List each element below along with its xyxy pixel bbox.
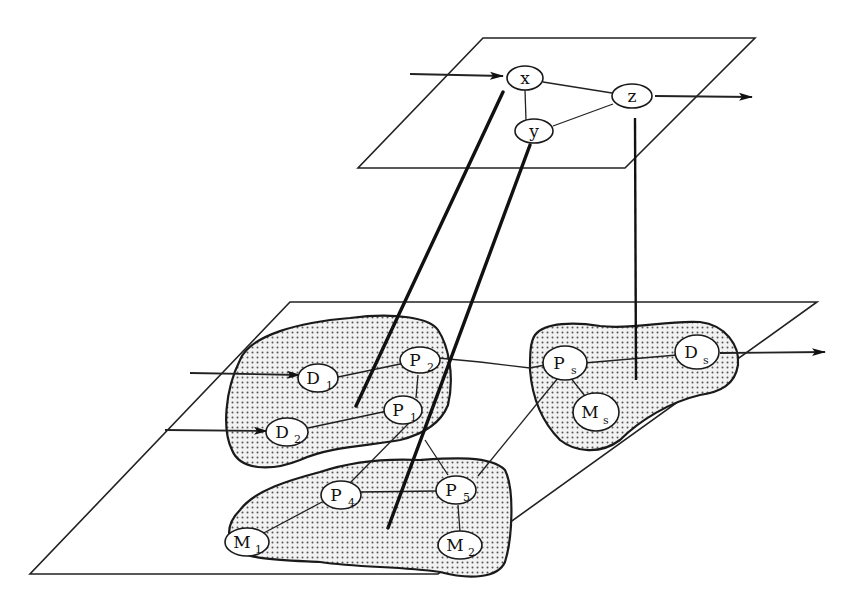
node-d2: D 2	[266, 418, 308, 446]
node-p1: P 1	[384, 396, 422, 424]
mapping-line-z	[635, 118, 636, 380]
node-p4: P 4	[321, 481, 361, 509]
node-x: x	[507, 66, 543, 90]
svg-text:z: z	[628, 86, 637, 106]
node-ms: M s	[573, 393, 619, 431]
node-y: y	[515, 119, 553, 143]
svg-text:s: s	[703, 354, 709, 367]
svg-text:2: 2	[468, 546, 475, 559]
hierarchical-mapping-diagram: x y z D 1 D 2 P 1 P 2 P 4 P 5 M 1	[0, 0, 853, 608]
svg-text:D: D	[684, 342, 698, 362]
svg-text:P: P	[445, 480, 456, 500]
svg-text:5: 5	[463, 491, 470, 504]
upper-plane	[358, 38, 755, 168]
node-m2: M 2	[438, 531, 482, 559]
output-arrow-z	[655, 96, 752, 97]
svg-text:P: P	[553, 353, 564, 373]
svg-text:D: D	[306, 368, 320, 388]
node-z: z	[612, 84, 652, 108]
svg-text:y: y	[528, 121, 539, 141]
svg-text:2: 2	[427, 361, 434, 374]
svg-text:2: 2	[294, 433, 301, 446]
node-p5: P 5	[436, 476, 476, 504]
node-ds: D s	[675, 335, 719, 369]
svg-text:P: P	[330, 485, 341, 505]
svg-text:M: M	[446, 535, 463, 555]
svg-text:M: M	[581, 402, 598, 422]
svg-text:P: P	[409, 350, 420, 370]
svg-text:x: x	[520, 68, 530, 88]
svg-text:1: 1	[255, 543, 262, 556]
node-m1: M 1	[225, 528, 269, 556]
svg-text:D: D	[275, 422, 289, 442]
svg-text:1: 1	[326, 379, 333, 392]
svg-text:s: s	[603, 414, 609, 427]
svg-text:1: 1	[410, 411, 417, 424]
svg-text:P: P	[392, 400, 403, 420]
svg-text:s: s	[571, 364, 577, 377]
input-arrow-d2	[165, 430, 267, 431]
node-d1: D 1	[298, 364, 338, 392]
svg-text:M: M	[233, 532, 250, 552]
output-arrow-ds	[720, 352, 825, 353]
node-p2: P 2	[400, 347, 440, 374]
svg-text:4: 4	[348, 496, 355, 509]
node-ps: P s	[543, 346, 587, 380]
